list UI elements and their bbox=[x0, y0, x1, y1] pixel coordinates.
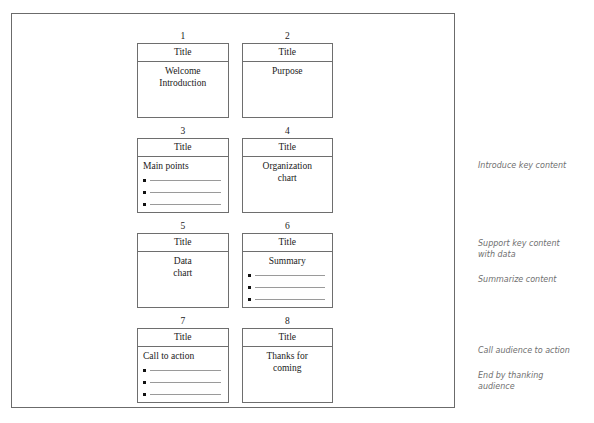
bullet-item bbox=[143, 388, 223, 400]
slide-grid: 1TitleWelcomeIntroduction2TitlePurpose3T… bbox=[137, 30, 333, 410]
bullet-placeholder-rule bbox=[255, 275, 326, 276]
slide-cell-7[interactable]: 7TitleCall to action bbox=[137, 315, 229, 403]
slide-cell-5[interactable]: 5TitleDatachart bbox=[137, 220, 229, 308]
slide-box[interactable]: TitleDatachart bbox=[137, 233, 229, 308]
bullet-item bbox=[143, 198, 223, 210]
slide-box[interactable]: TitlePurpose bbox=[242, 43, 334, 118]
slide-title: Title bbox=[243, 329, 333, 347]
slide-number: 2 bbox=[242, 30, 334, 43]
slide-cell-4[interactable]: 4TitleOrganizationchart bbox=[242, 125, 334, 213]
bullet-placeholder-rule bbox=[150, 204, 221, 205]
bullet-placeholder-rule bbox=[150, 382, 221, 383]
annotation-note: Call audience to action bbox=[478, 345, 594, 356]
slide-cell-2[interactable]: 2TitlePurpose bbox=[242, 30, 334, 118]
annotation-note: Summarize content bbox=[478, 274, 594, 285]
slide-bullet-list bbox=[143, 174, 223, 210]
slide-row: 1TitleWelcomeIntroduction2TitlePurpose bbox=[137, 30, 333, 118]
slide-title: Title bbox=[243, 139, 333, 157]
slide-box[interactable]: TitleThanks forcoming bbox=[242, 328, 334, 403]
slide-body: Main points bbox=[138, 157, 228, 212]
slide-body-text: Call to action bbox=[143, 350, 223, 362]
annotation-note: Support key contentwith data bbox=[478, 238, 594, 260]
slide-cell-8[interactable]: 8TitleThanks forcoming bbox=[242, 315, 334, 403]
bullet-item bbox=[248, 293, 328, 305]
bullet-item bbox=[248, 281, 328, 293]
slide-body-text: Thanks forcoming bbox=[248, 350, 328, 374]
slide-title: Title bbox=[138, 44, 228, 62]
slide-body: Purpose bbox=[243, 62, 333, 117]
bullet-dot-icon bbox=[248, 298, 251, 301]
annotation-note: Introduce key content bbox=[478, 160, 594, 171]
slide-body-text: Purpose bbox=[248, 65, 328, 77]
bullet-placeholder-rule bbox=[255, 287, 326, 288]
slide-row: 5TitleDatachart6TitleSummary bbox=[137, 220, 333, 308]
slide-row: 7TitleCall to action8TitleThanks forcomi… bbox=[137, 315, 333, 403]
slide-cell-3[interactable]: 3TitleMain points bbox=[137, 125, 229, 213]
bullet-dot-icon bbox=[143, 381, 146, 384]
slide-body: WelcomeIntroduction bbox=[138, 62, 228, 117]
slide-body: Organizationchart bbox=[243, 157, 333, 212]
bullet-dot-icon bbox=[248, 274, 251, 277]
slide-title: Title bbox=[138, 234, 228, 252]
slide-box[interactable]: TitleSummary bbox=[242, 233, 334, 308]
bullet-dot-icon bbox=[143, 203, 146, 206]
slide-bullet-list bbox=[143, 364, 223, 400]
slide-body: Summary bbox=[243, 252, 333, 307]
slide-row: 3TitleMain points4TitleOrganizationchart bbox=[137, 125, 333, 213]
slide-body-text: Summary bbox=[248, 255, 328, 267]
slide-number: 4 bbox=[242, 125, 334, 138]
bullet-item bbox=[143, 186, 223, 198]
slide-body: Thanks forcoming bbox=[243, 347, 333, 402]
bullet-dot-icon bbox=[143, 369, 146, 372]
slide-number: 8 bbox=[242, 315, 334, 328]
slide-body: Call to action bbox=[138, 347, 228, 402]
slide-number: 6 bbox=[242, 220, 334, 233]
bullet-dot-icon bbox=[143, 179, 146, 182]
slide-body-text: WelcomeIntroduction bbox=[143, 65, 223, 89]
slide-number: 3 bbox=[137, 125, 229, 138]
bullet-item bbox=[143, 376, 223, 388]
bullet-item bbox=[248, 269, 328, 281]
bullet-placeholder-rule bbox=[255, 299, 326, 300]
bullet-dot-icon bbox=[143, 191, 146, 194]
bullet-placeholder-rule bbox=[150, 180, 221, 181]
bullet-dot-icon bbox=[143, 393, 146, 396]
slide-body: Datachart bbox=[138, 252, 228, 307]
bullet-item bbox=[143, 364, 223, 376]
slide-title: Title bbox=[138, 139, 228, 157]
annotation-note: End by thankingaudience bbox=[478, 370, 594, 392]
slide-body-text: Main points bbox=[143, 160, 223, 172]
slide-body-text: Organizationchart bbox=[248, 160, 328, 184]
slide-number: 7 bbox=[137, 315, 229, 328]
annotation-column: Introduce key contentSupport key content… bbox=[478, 0, 594, 423]
slide-title: Title bbox=[138, 329, 228, 347]
slide-bullet-list bbox=[248, 269, 328, 305]
slide-box[interactable]: TitleCall to action bbox=[137, 328, 229, 403]
bullet-dot-icon bbox=[248, 286, 251, 289]
bullet-placeholder-rule bbox=[150, 394, 221, 395]
bullet-item bbox=[143, 174, 223, 186]
slide-title: Title bbox=[243, 234, 333, 252]
slide-number: 5 bbox=[137, 220, 229, 233]
slide-box[interactable]: TitleMain points bbox=[137, 138, 229, 213]
storyboard-frame: 1TitleWelcomeIntroduction2TitlePurpose3T… bbox=[11, 13, 455, 408]
slide-title: Title bbox=[243, 44, 333, 62]
slide-cell-1[interactable]: 1TitleWelcomeIntroduction bbox=[137, 30, 229, 118]
slide-cell-6[interactable]: 6TitleSummary bbox=[242, 220, 334, 308]
slide-number: 1 bbox=[137, 30, 229, 43]
slide-box[interactable]: TitleOrganizationchart bbox=[242, 138, 334, 213]
bullet-placeholder-rule bbox=[150, 370, 221, 371]
bullet-placeholder-rule bbox=[150, 192, 221, 193]
slide-body-text: Datachart bbox=[143, 255, 223, 279]
slide-box[interactable]: TitleWelcomeIntroduction bbox=[137, 43, 229, 118]
